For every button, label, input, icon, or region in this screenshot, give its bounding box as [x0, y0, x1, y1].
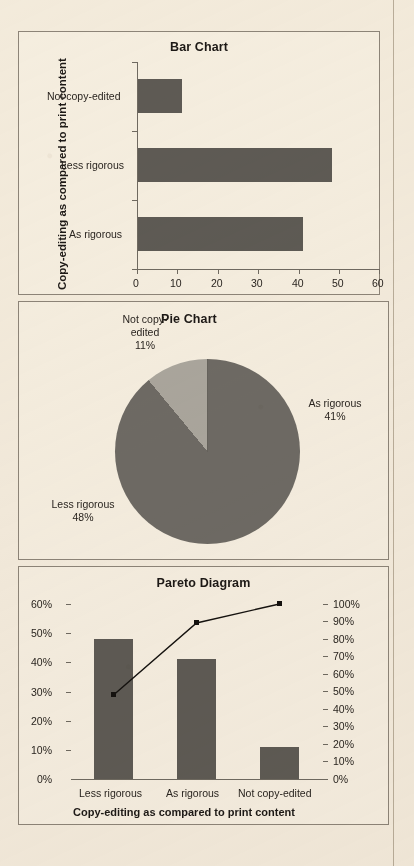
bar-chart-x-tick — [299, 269, 300, 274]
pareto-x-axis-title: Copy-editing as compared to print conten… — [19, 806, 349, 818]
pie-label-not-copy-edited-value: 11% — [102, 339, 188, 352]
bar-chart-category-label: As rigorous — [69, 228, 122, 240]
pareto-category-label: As rigorous — [166, 787, 219, 799]
bar-chart-x-tick — [137, 269, 138, 274]
pie-label-less-rigorous-name: Less rigorous — [35, 498, 131, 511]
bar-chart-x-tick — [258, 269, 259, 274]
bar-chart-bar — [138, 217, 303, 251]
pie-label-not-copy-edited: Not copy- edited 11% — [102, 313, 188, 352]
bar-chart-x-tick — [177, 269, 178, 274]
bar-chart-x-tick — [218, 269, 219, 274]
bar-chart-x-tick-label: 20 — [211, 277, 223, 289]
bar-chart-bar — [138, 148, 332, 182]
pareto-category-label: Less rigorous — [79, 787, 142, 799]
pie-label-as-rigorous-name: As rigorous — [289, 397, 381, 410]
bar-chart-category-label: Less rigorous — [61, 159, 124, 171]
pie-label-not-copy-edited-line1: Not copy- — [102, 313, 188, 326]
bar-chart-x-tick-label: 40 — [292, 277, 304, 289]
bar-chart-panel: Bar Chart Copy-editing as compared to pr… — [18, 31, 380, 295]
pie-label-as-rigorous-value: 41% — [289, 410, 381, 423]
bar-chart-x-tick-label: 0 — [133, 277, 139, 289]
pareto-cumulative-marker — [277, 601, 282, 606]
bar-chart-x-tick-label: 50 — [332, 277, 344, 289]
bar-chart-y-tick — [132, 62, 137, 63]
pie-label-as-rigorous: As rigorous 41% — [289, 397, 381, 423]
bar-chart-bar — [138, 79, 182, 113]
pareto-cumulative-marker — [194, 620, 199, 625]
bar-chart-x-tick-label: 30 — [251, 277, 263, 289]
bar-chart-x-tick-label: 10 — [170, 277, 182, 289]
page-margin-rule — [393, 0, 394, 866]
pareto-chart-panel: Pareto Diagram 60% 50% 40% 30% 20% 10% 0… — [18, 566, 389, 825]
pareto-category-label: Not copy-edited — [238, 787, 312, 799]
bar-chart-y-tick — [132, 131, 137, 132]
pareto-cumulative-marker — [111, 692, 116, 697]
bar-chart-x-tick-label: 60 — [372, 277, 384, 289]
bar-chart-x-tick — [379, 269, 380, 274]
bar-chart-category-label: Not copy-edited — [47, 90, 121, 102]
pareto-chart-plot-area: 60% 50% 40% 30% 20% 10% 0% 100% 90% 80% … — [19, 567, 388, 824]
pie-label-less-rigorous-value: 48% — [35, 511, 131, 524]
pie-label-not-copy-edited-line2: edited — [102, 326, 188, 339]
bar-chart-x-tick — [339, 269, 340, 274]
pie-chart-slice-divider — [207, 359, 208, 452]
pie-label-less-rigorous: Less rigorous 48% — [35, 498, 131, 524]
bar-chart-plot-area: Not copy-edited Less rigorous As rigorou… — [19, 32, 379, 294]
pie-chart-panel: Pie Chart Not copy- edited 11% As rigoro… — [18, 301, 389, 560]
bar-chart-y-tick — [132, 200, 137, 201]
